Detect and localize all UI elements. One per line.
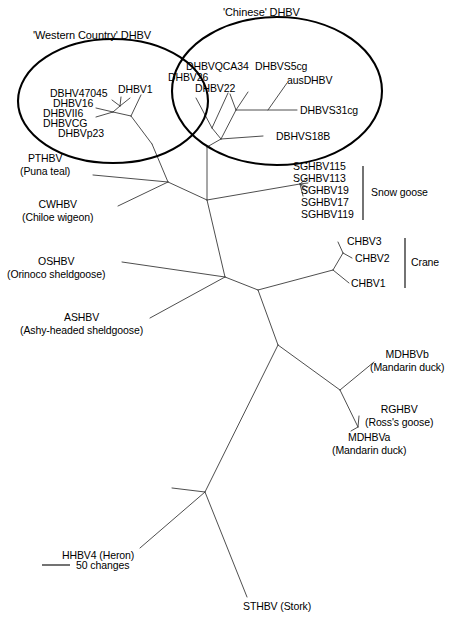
western-country-group-title: 'Western Country' DHBV xyxy=(33,29,151,42)
branch-hhbv4 xyxy=(140,492,205,548)
branch-node-c-to-node-d xyxy=(207,200,225,277)
taxon-label-pthbv: PTHBV (Puna teal) xyxy=(20,152,70,177)
branch-dhbvii6 xyxy=(112,100,120,106)
branch-western-internal-1 xyxy=(113,106,120,112)
taxon-label-sghbv19: SGHBV19 xyxy=(301,184,349,197)
branch-chinese-internal-left xyxy=(212,128,221,139)
taxon-common-ashbv: (Ashy-headed sheldgoose) xyxy=(20,324,143,337)
taxon-common-rghbv: (Ross's goose) xyxy=(365,416,433,429)
taxon-common-mdhbva: (Mandarin duck) xyxy=(332,444,406,457)
branch-dbhv47045 xyxy=(120,98,130,106)
branch-node-f-to-node-g xyxy=(205,345,278,492)
western-cluster-branches xyxy=(96,95,152,144)
taxon-common-mdhbvb: (Mandarin duck) xyxy=(370,361,444,374)
taxon-code-mdhbvb: MDHBVb xyxy=(370,348,444,361)
branch-rghbv xyxy=(358,416,359,427)
taxon-common-cwhbv: (Chiloe wigeon) xyxy=(22,211,93,224)
taxon-common-oshbv: (Orinoco sheldgoose) xyxy=(7,268,105,281)
crane-bracket-label: Crane xyxy=(411,256,439,269)
branch-mdhbvb xyxy=(340,362,374,390)
taxon-label-cwhbv: CWHBV (Chiloe wigeon) xyxy=(22,198,93,223)
branch-mdhbva-stem xyxy=(340,390,358,427)
branch-ashbv xyxy=(150,277,225,318)
taxon-label-dbhvs18b: DBHVS18B xyxy=(276,130,330,143)
taxon-code-pthbv: PTHBV xyxy=(20,152,70,165)
branch-dhbv1 xyxy=(131,95,141,116)
chinese-group-title: 'Chinese' DHBV xyxy=(223,6,300,19)
branch-chinese-internal-mid xyxy=(221,110,236,139)
branch-dhbvcg xyxy=(96,108,113,112)
branch-chinese-root xyxy=(207,139,221,147)
branch-ausdhbv xyxy=(268,83,287,110)
branch-oshbv xyxy=(122,262,225,277)
taxon-code-oshbv: OSHBV xyxy=(7,255,105,268)
branch-dhbv22 xyxy=(212,93,228,128)
branch-snow-goose-stem xyxy=(207,184,300,200)
taxon-label-sthbv: STHBV (Stork) xyxy=(243,600,311,613)
taxon-label-dhbv22: DHBV22 xyxy=(195,82,235,95)
branch-sthbv xyxy=(205,492,247,597)
taxon-label-ashbv: ASHBV (Ashy-headed sheldgoose) xyxy=(20,311,143,336)
taxon-label-sghbv119: SGHBV119 xyxy=(301,208,354,221)
snow-goose-bracket-label: Snow goose xyxy=(371,186,428,199)
branch-crane-stem xyxy=(258,270,333,290)
branch-node-d-to-node-e xyxy=(225,277,258,290)
taxon-label-mdhbvb: MDHBVb (Mandarin duck) xyxy=(370,348,444,373)
branch-mandarin-clade-stem xyxy=(278,345,340,390)
scale-bar-label: 50 changes xyxy=(76,559,129,572)
taxon-label-chbv2: CHBV2 xyxy=(355,252,390,265)
branch-chbv3 xyxy=(338,242,343,253)
branch-node-a-to-node-b xyxy=(152,144,168,182)
branch-dhbv26 xyxy=(196,98,212,128)
taxon-label-sghbv115: SGHBV115 xyxy=(293,160,346,173)
branch-western-stem xyxy=(113,112,131,116)
branch-chbv2 xyxy=(343,253,352,258)
taxon-code-ashbv: ASHBV xyxy=(20,311,143,324)
branch-node-e-to-node-f xyxy=(258,290,278,345)
taxon-code-rghbv: RGHBV xyxy=(365,403,433,416)
taxon-common-pthbv: (Puna teal) xyxy=(20,165,70,178)
branch-dhbvp23 xyxy=(96,112,113,117)
taxon-label-dhbvp23: DHBVp23 xyxy=(58,127,104,140)
taxon-code-cwhbv: CWHBV xyxy=(22,198,93,211)
taxon-code-mdhbva: MDHBVa xyxy=(332,431,406,444)
branch-crane-internal xyxy=(333,253,343,270)
branch-node-b-to-node-c xyxy=(168,182,207,200)
taxon-label-sghbv113: SGHBV113 xyxy=(293,172,346,185)
branch-dbhvs18b xyxy=(221,136,263,139)
branch-dhbv16 xyxy=(120,97,121,106)
branch-dhbvs5cg xyxy=(236,92,248,110)
branch-dhbvqca34 xyxy=(230,94,236,110)
branch-chbv1 xyxy=(333,270,349,283)
taxon-label-rghbv: RGHBV (Ross's goose) xyxy=(365,403,433,428)
branch-pthbv xyxy=(93,175,168,182)
branch-western-root xyxy=(131,116,152,144)
taxon-label-mdhbva: MDHBVa (Mandarin duck) xyxy=(332,431,406,456)
taxon-label-dhbv1: DHBV1 xyxy=(118,83,153,96)
branch-node-g-stub xyxy=(172,488,205,492)
taxon-label-sghbv17: SGHBV17 xyxy=(301,196,349,209)
branch-cwhbv xyxy=(118,182,168,206)
taxon-label-dhbvs5cg: DHBVS5cg xyxy=(255,60,307,73)
taxon-label-ausdhbv: ausDHBV xyxy=(287,74,332,87)
taxon-label-chbv3: CHBV3 xyxy=(347,235,382,248)
taxon-label-oshbv: OSHBV (Orinoco sheldgoose) xyxy=(7,255,105,280)
taxon-label-chbv1: CHBV1 xyxy=(351,277,386,290)
phylogenetic-tree-figure: 'Western Country' DHBV 'Chinese' DHBV DB… xyxy=(0,0,464,620)
taxon-label-dhbvs31cg: DHBVS31cg xyxy=(300,104,358,117)
